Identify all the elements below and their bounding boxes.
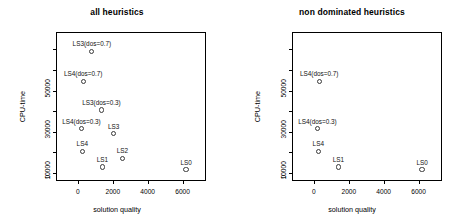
- data-point-label: LS3: [108, 123, 119, 130]
- x-axis-tick: [349, 180, 350, 184]
- x-axis-tick-label: 6000: [411, 188, 426, 195]
- data-point-marker: [317, 79, 322, 84]
- data-point-marker: [111, 131, 116, 136]
- y-axis-tick: [289, 70, 293, 71]
- x-axis-tick-label: 0: [76, 188, 80, 195]
- x-axis-tick: [419, 180, 420, 184]
- x-axis-tick: [314, 180, 315, 184]
- y-axis-tick-label: 10000: [45, 161, 52, 179]
- x-axis-tick: [78, 180, 79, 184]
- data-point-label: LS4: [313, 140, 324, 147]
- chart-panel-all-heuristics: all heuristics CPU-time 0100003000050000…: [0, 0, 234, 224]
- data-point-marker: [183, 167, 188, 172]
- y-axis-minor-tick: [289, 132, 293, 133]
- x-axis-tick-label: 2000: [105, 188, 120, 195]
- y-axis-minor-tick: [53, 132, 57, 133]
- y-axis-tick: [289, 173, 293, 174]
- x-axis-tick-label: 6000: [175, 188, 190, 195]
- data-point-label: LS4(dos=0.3): [62, 118, 101, 125]
- plot-area: 01000030000500000200040006000LS3(dos=0.7…: [57, 33, 205, 180]
- x-axis-tick: [148, 180, 149, 184]
- x-axis-title: solution quality: [235, 205, 469, 214]
- plot-frame: 01000030000500000200040006000LS4(dos=0.7…: [292, 32, 442, 181]
- x-axis-tick: [384, 180, 385, 184]
- y-axis-minor-tick: [289, 91, 293, 92]
- data-point-label: LS0: [180, 159, 191, 166]
- y-axis-title: CPU-time: [253, 32, 263, 181]
- x-axis-tick-label: 2000: [341, 188, 356, 195]
- y-axis-tick: [53, 111, 57, 112]
- chart-panel-non-dominated-heuristics: non dominated heuristics CPU-time 010000…: [235, 0, 469, 224]
- data-point-label: LS4(dos=0.7): [64, 70, 103, 77]
- data-point-marker: [81, 79, 86, 84]
- y-axis-tick: [53, 152, 57, 153]
- y-axis-tick: [289, 111, 293, 112]
- y-axis-minor-tick: [289, 49, 293, 50]
- y-axis-tick-label: 30000: [45, 120, 52, 138]
- data-point-marker: [79, 126, 84, 131]
- chart-title: non dominated heuristics: [235, 7, 469, 17]
- y-axis-minor-tick: [53, 91, 57, 92]
- plot-area: 01000030000500000200040006000LS4(dos=0.7…: [293, 33, 441, 180]
- data-point-label: LS2: [117, 147, 128, 154]
- y-axis-title: CPU-time: [18, 32, 28, 181]
- x-axis-tick: [183, 180, 184, 184]
- data-point-label: LS1: [97, 156, 108, 163]
- y-axis-tick-label: 10000: [281, 161, 288, 179]
- figure-canvas: all heuristics CPU-time 0100003000050000…: [0, 0, 469, 224]
- x-axis-tick-label: 0: [312, 188, 316, 195]
- data-point-label: LS4(dos=0.7): [300, 70, 339, 77]
- data-point-marker: [315, 126, 320, 131]
- x-axis-tick-label: 4000: [140, 188, 155, 195]
- y-axis-minor-tick: [53, 49, 57, 50]
- data-point-marker: [100, 164, 105, 169]
- data-point-label: LS4: [77, 140, 88, 147]
- chart-title: all heuristics: [0, 7, 234, 17]
- data-point-label: LS4(dos=0.3): [298, 118, 337, 125]
- data-point-marker: [99, 107, 104, 112]
- data-point-label: LS3(dos=0.7): [73, 40, 112, 47]
- data-point-label: LS1: [333, 156, 344, 163]
- data-point-marker: [80, 149, 85, 154]
- data-point-marker: [316, 149, 321, 154]
- y-axis-tick: [289, 152, 293, 153]
- data-point-marker: [89, 49, 94, 54]
- data-point-marker: [336, 164, 341, 169]
- y-axis-tick-label: 50000: [45, 79, 52, 97]
- y-axis-tick-label: 50000: [281, 79, 288, 97]
- x-axis-title: solution quality: [0, 205, 234, 214]
- x-axis-tick: [113, 180, 114, 184]
- y-axis-tick-label: 30000: [281, 120, 288, 138]
- plot-frame: 01000030000500000200040006000LS3(dos=0.7…: [56, 32, 206, 181]
- x-axis-tick-label: 4000: [376, 188, 391, 195]
- data-point-label: LS3(dos=0.3): [82, 99, 121, 106]
- data-point-marker: [120, 156, 125, 161]
- data-point-marker: [419, 167, 424, 172]
- data-point-label: LS0: [416, 159, 427, 166]
- y-axis-tick: [53, 173, 57, 174]
- y-axis-tick: [53, 70, 57, 71]
